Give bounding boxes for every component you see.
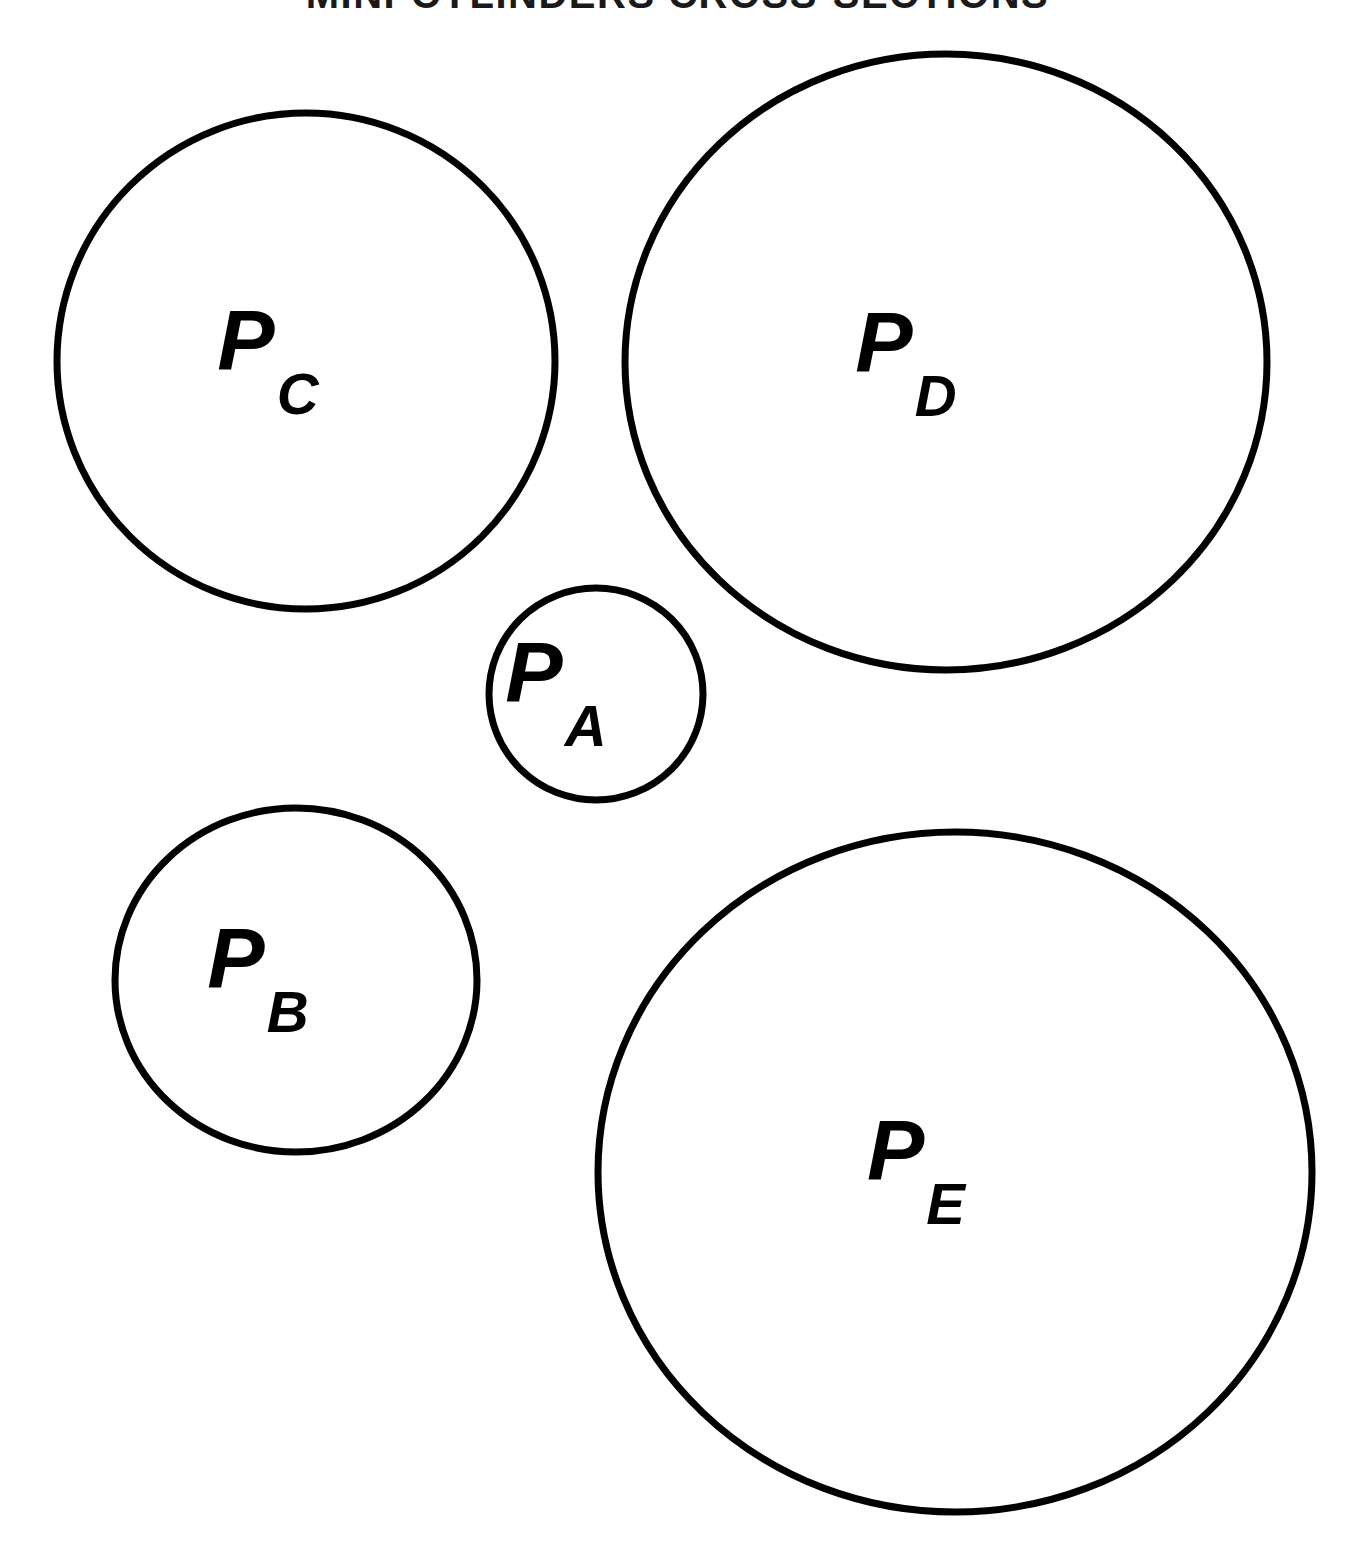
circle-group-pb[interactable]: PB xyxy=(115,808,477,1152)
circle-label-pe: PE xyxy=(867,1102,967,1236)
circle-label-pd: PD xyxy=(855,294,956,428)
circle-label-base-pa: P xyxy=(505,624,563,720)
circle-group-pe[interactable]: PE xyxy=(598,832,1312,1512)
circle-label-pb: PB xyxy=(207,910,308,1044)
circle-group-pa[interactable]: PA xyxy=(489,588,703,800)
circle-label-sub-pd: D xyxy=(915,363,957,428)
circle-label-sub-pe: E xyxy=(926,1171,967,1236)
circle-label-sub-pa: A xyxy=(563,693,607,758)
circle-outline-pd[interactable] xyxy=(625,54,1267,670)
circle-label-sub-pb: B xyxy=(267,979,309,1044)
circles-diagram: PC PD PA PB PE xyxy=(0,0,1355,1563)
circle-label-base-pb: P xyxy=(207,910,265,1006)
figure-canvas: MINI-CYLINDERS CROSS-SECTIONS PC PD PA P… xyxy=(0,0,1355,1563)
circle-label-pa: PA xyxy=(505,624,606,758)
circle-label-base-pe: P xyxy=(867,1102,925,1198)
circle-label-base-pc: P xyxy=(217,292,275,388)
circle-group-pc[interactable]: PC xyxy=(57,113,555,609)
circle-label-base-pd: P xyxy=(855,294,913,390)
circle-group-pd[interactable]: PD xyxy=(625,54,1267,670)
circle-label-pc: PC xyxy=(217,292,319,426)
circle-label-sub-pc: C xyxy=(277,361,320,426)
